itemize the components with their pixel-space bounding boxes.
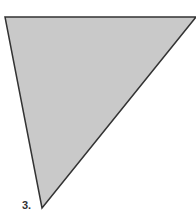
triangle-shape: [5, 17, 196, 208]
figure-number-label: 3.: [22, 199, 31, 211]
triangle-figure: [0, 0, 196, 220]
